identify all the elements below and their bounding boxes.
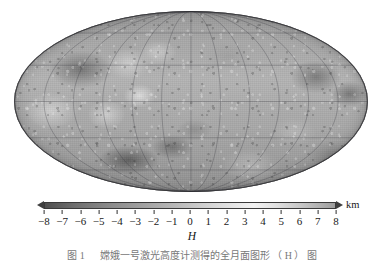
- colorbar-tick-label: −6: [74, 214, 86, 228]
- colorbar-unit-label: km: [346, 198, 359, 211]
- colorbar-tick-label: 0: [187, 214, 193, 228]
- colorbar-group: −8−7−6−5−4−3−2−1012345678 km H: [0, 196, 384, 257]
- colorbar-tick-label: −7: [56, 214, 68, 228]
- figure-caption: 图 1 嫦娥一号激光高度计测得的全月面图形 （ H ） 图: [0, 249, 384, 263]
- colorbar-tick-label: 7: [315, 214, 321, 228]
- colorbar-tick-label: 8: [333, 214, 339, 228]
- map-panel: [14, 11, 368, 192]
- colorbar-extend-high-arrow-icon: [336, 201, 343, 209]
- colorbar-tick-label: −5: [93, 214, 105, 228]
- colorbar-tick-label: 2: [224, 214, 230, 228]
- colorbar-gradient: [44, 202, 336, 209]
- colorbar-tick-label: 3: [242, 214, 248, 228]
- colorbar-tick-label: 5: [278, 214, 284, 228]
- colorbar-tick-label: 6: [297, 214, 303, 228]
- colorbar-tick-label: −4: [111, 214, 123, 228]
- colorbar-axis-title: H: [0, 230, 384, 242]
- colorbar-tick-label: 4: [260, 214, 266, 228]
- graticule-overlay: [14, 11, 368, 192]
- colorbar-tick-label: −1: [166, 214, 178, 228]
- colorbar-tick-label: −2: [147, 214, 159, 228]
- colorbar-tick-label: 1: [205, 214, 211, 228]
- colorbar-tick-label: −3: [129, 214, 141, 228]
- colorbar-bar-wrap: [44, 201, 336, 210]
- colorbar-extend-low-arrow-icon: [37, 201, 44, 209]
- colorbar-tick-label: −8: [38, 214, 50, 228]
- colorbar-tick-labels: −8−7−6−5−4−3−2−1012345678: [44, 214, 336, 230]
